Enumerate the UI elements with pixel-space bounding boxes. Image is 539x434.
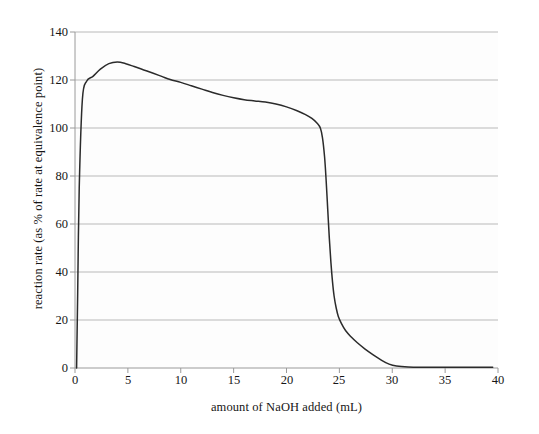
chart-figure: reaction rate (as % of rate at equivalen… [0,0,539,434]
plot-background [75,32,498,368]
plot-svg [0,0,539,434]
